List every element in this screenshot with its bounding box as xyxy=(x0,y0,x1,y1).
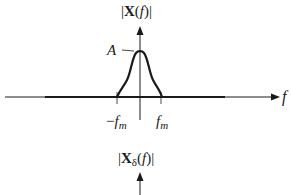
tick-label-plus-fm: fm xyxy=(156,114,168,129)
abs-close: | xyxy=(151,150,154,166)
x-symbol: X xyxy=(121,150,132,166)
x-symbol: X xyxy=(124,3,135,19)
x-axis-arrowhead-icon xyxy=(271,94,280,101)
m-subscript: m xyxy=(119,119,127,131)
abs-close: | xyxy=(149,3,152,19)
f-base: f xyxy=(114,113,118,129)
tick-label-minus-fm: −fm xyxy=(106,114,127,129)
peak-leader-line xyxy=(122,50,134,51)
y-axis-arrowhead-icon xyxy=(137,26,144,35)
x-axis-label-f: f xyxy=(282,89,286,105)
peak-label-A: A xyxy=(107,43,116,58)
top-y-axis-label: |X(f)| xyxy=(121,4,152,19)
m-subscript: m xyxy=(160,119,168,131)
bottom-y-axis-arrowhead-icon xyxy=(137,172,144,181)
delta-subscript: δ xyxy=(132,156,137,168)
bottom-y-axis-label: |Xδ(f)| xyxy=(118,151,154,166)
